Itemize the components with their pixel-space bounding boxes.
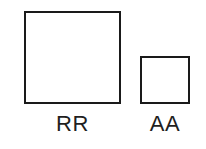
shape-comparison-diagram: RR AA xyxy=(0,0,206,149)
large-square-label: RR xyxy=(24,113,121,135)
small-square-label: AA xyxy=(140,113,190,135)
small-square-shape xyxy=(140,56,190,104)
large-square-shape xyxy=(24,11,121,104)
